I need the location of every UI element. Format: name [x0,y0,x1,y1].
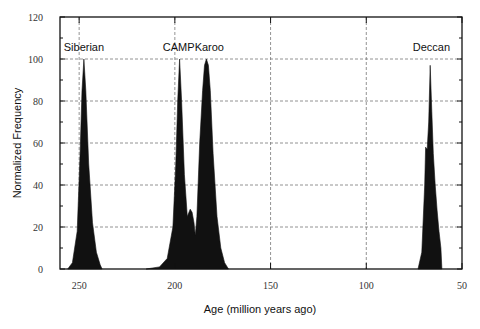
y-tick-label: 20 [33,222,43,233]
grid-lines [60,17,462,269]
area-siberian [68,59,102,269]
chart: 02040608010012025020015010050 SiberianCA… [0,0,480,329]
y-tick-label: 40 [33,180,43,191]
peak-label-siberian: Siberian [64,41,104,53]
y-axis-label: Normalized Frequency [11,87,23,198]
y-tick-label: 0 [38,264,43,275]
x-tick-label: 150 [263,280,278,291]
peak-label-camp: CAMP [163,41,195,53]
area-camp-karoo [146,59,228,269]
y-tick-label: 60 [33,138,43,149]
x-tick-label: 200 [167,280,182,291]
x-tick-label: 100 [359,280,374,291]
peak-label-deccan: Deccan [413,41,450,53]
data-areas [68,59,442,269]
y-tick-label: 100 [28,54,43,65]
peak-label-karoo: Karoo [195,41,224,53]
x-axis-label: Age (million years ago) [204,303,317,315]
x-tick-label: 250 [72,280,87,291]
area-deccan [418,65,442,269]
x-tick-label: 50 [457,280,467,291]
peak-labels: SiberianCAMPKarooDeccan [64,41,450,53]
y-tick-label: 120 [28,12,43,23]
y-tick-label: 80 [33,96,43,107]
